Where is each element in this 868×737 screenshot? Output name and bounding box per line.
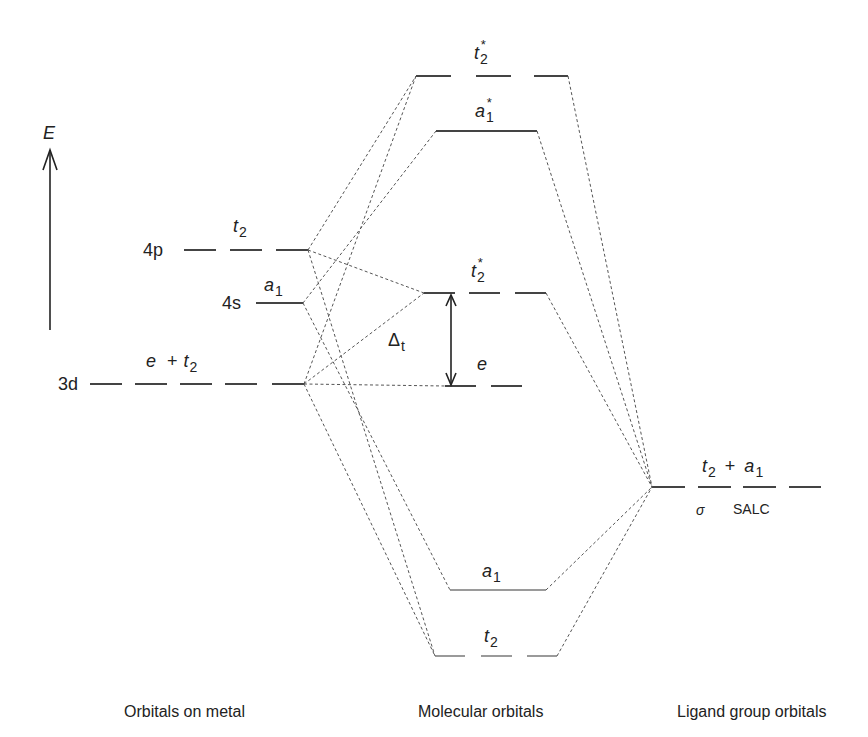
symmetry-symbol: t xyxy=(233,216,238,236)
symmetry-subscript: 1 xyxy=(275,283,283,299)
symmetry-subscript: 1 xyxy=(486,109,494,125)
symmetry-subscript-a: 1 xyxy=(755,464,763,480)
ligand-symmetry-label: t2 + a1 xyxy=(702,457,763,475)
symmetry-subscript: 2 xyxy=(190,359,198,375)
ligand-correlation-lines xyxy=(537,76,652,656)
symmetry-symbol: e xyxy=(477,354,487,374)
plus-sign: + xyxy=(167,351,178,371)
metal-correlation-lines xyxy=(303,76,450,656)
salc-label: SALC xyxy=(733,502,770,516)
mo-a1-bonding-label: a1 xyxy=(482,562,501,580)
column-caption-ligand: Ligand group orbitals xyxy=(677,703,826,721)
mo-diagram-canvas xyxy=(0,0,868,737)
symmetry-subscript: 1 xyxy=(493,569,501,585)
delta-t-label: Δt xyxy=(388,331,405,349)
delta-symbol: Δ xyxy=(388,330,400,350)
mo-t2-star-mid-label: t2* xyxy=(471,262,490,280)
antibonding-star: * xyxy=(487,95,492,110)
antibonding-star: * xyxy=(481,37,486,52)
metal-3d-symmetry-label: e +t2 xyxy=(146,352,197,370)
symmetry-symbol: t xyxy=(484,626,489,646)
mo-t2-bonding-label: t2 xyxy=(484,627,498,645)
orbital-name: 3d xyxy=(58,374,78,394)
energy-axis-label: E xyxy=(43,124,55,142)
symmetry-subscript: 2 xyxy=(480,51,488,67)
symmetry-subscript: 2 xyxy=(490,634,498,650)
symmetry-symbol: a xyxy=(482,561,492,581)
orbital-name: 4p xyxy=(143,240,163,260)
metal-4s-label: 4s xyxy=(222,294,241,312)
symmetry-subscript: 2 xyxy=(239,224,247,240)
column-caption-metal: Orbitals on metal xyxy=(124,703,245,721)
symmetry-symbol: t xyxy=(471,261,476,281)
antibonding-star: * xyxy=(478,255,483,270)
delta-subscript: t xyxy=(401,338,405,354)
plus-sign: + xyxy=(725,456,736,476)
orbital-name: 4s xyxy=(222,293,241,313)
metal-3d-label: 3d xyxy=(58,375,78,393)
symmetry-t: t xyxy=(184,351,189,371)
symmetry-subscript-t: 2 xyxy=(708,464,716,480)
metal-4p-symmetry-label: t2 xyxy=(233,217,247,235)
symmetry-symbol: t xyxy=(474,43,479,63)
sigma-label: σ xyxy=(696,503,704,517)
symmetry-a: a xyxy=(744,456,754,476)
mo-a1-star-label: a1* xyxy=(475,102,499,120)
symmetry-symbol: a xyxy=(264,275,274,295)
column-caption-mo: Molecular orbitals xyxy=(418,703,543,721)
symmetry-t: t xyxy=(702,456,707,476)
symmetry-subscript: 2 xyxy=(477,269,485,285)
metal-4p-label: 4p xyxy=(143,241,163,259)
energy-axis-arrow xyxy=(43,150,57,330)
delta-t-arrow xyxy=(446,295,456,385)
symmetry-symbol: a xyxy=(475,101,485,121)
metal-4s-symmetry-label: a1 xyxy=(264,276,283,294)
mo-e-label: e xyxy=(477,355,487,373)
symmetry-e: e xyxy=(146,351,156,371)
mo-t2-star-top-label: t2* xyxy=(474,44,493,62)
